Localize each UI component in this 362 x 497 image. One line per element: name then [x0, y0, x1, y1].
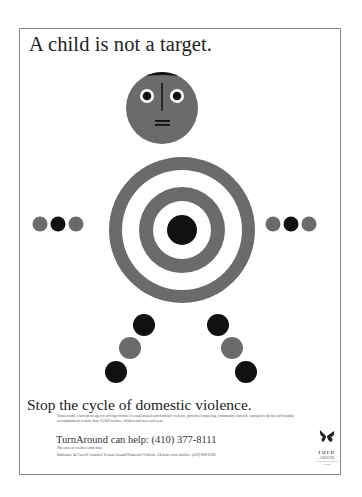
head — [120, 69, 204, 144]
left-arm — [33, 217, 84, 232]
poster: A child is not a target. — [19, 28, 341, 475]
mouth-top — [155, 120, 170, 122]
right-arm — [266, 217, 317, 232]
turnaround-logo: turn AROUND sexual assault domestic viol… — [315, 429, 339, 466]
help-subline: The cycle of violence ends here. — [57, 446, 103, 450]
butterfly-icon — [319, 429, 335, 443]
logo-wordmark: turn — [315, 448, 339, 456]
left-eye-icon — [140, 89, 154, 103]
tagline: Stop the cycle of domestic violence. — [27, 396, 252, 414]
right-leg — [207, 314, 257, 383]
help-phone-line: TurnAround can help: (410) 377-8111 — [56, 434, 216, 445]
target-torso — [109, 157, 255, 303]
right-eye-icon — [170, 89, 184, 103]
left-leg — [105, 314, 155, 383]
mouth-bottom — [155, 124, 170, 126]
crisis-hotline: Baltimore & Carroll Counties' Sexual Ass… — [57, 453, 215, 457]
body-copy: TurnAround, a non-profit agency serving … — [57, 414, 297, 424]
nose — [161, 83, 163, 111]
logo-tagline: sexual assault domestic violence — [315, 460, 339, 466]
